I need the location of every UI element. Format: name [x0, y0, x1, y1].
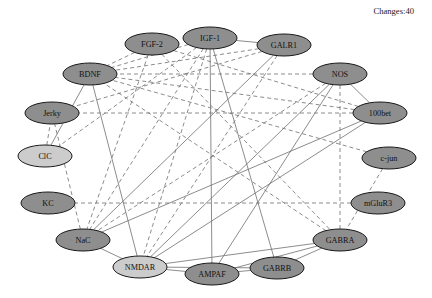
graph-node-bdnf[interactable]: BDNF: [63, 63, 117, 85]
graph-node-galr1[interactable]: GALR1: [257, 34, 311, 56]
graph-edge: [112, 80, 367, 152]
graph-edge: [93, 85, 137, 256]
graph-node-nos[interactable]: NOS: [313, 63, 367, 85]
node-label: c-jun: [381, 154, 398, 163]
node-label: NMDAR: [125, 263, 156, 272]
graph-edge: [104, 83, 326, 230]
node-layer: FGF-2IGF-1GALR1NOS100betc-junmGluR3GABRA…: [18, 27, 416, 285]
graph-node-mglur3[interactable]: mGluR3: [351, 192, 405, 214]
graph-edge: [238, 270, 250, 271]
graph-edge: [236, 40, 257, 42]
graph-edge: [350, 84, 369, 103]
graph-edge: [162, 54, 330, 230]
graph-node-c-jun[interactable]: c-jun: [362, 147, 416, 169]
graph-node-jerky[interactable]: Jerky: [25, 102, 79, 124]
node-label: AMPAF: [198, 270, 226, 279]
node-label: NOS: [332, 70, 349, 79]
graph-svg: FGF-2IGF-1GALR1NOS100betc-junmGluR3GABRA…: [0, 0, 432, 298]
node-label: KC: [42, 199, 54, 208]
graph-node-gabrb[interactable]: GABRB: [250, 257, 304, 279]
graph-edge: [107, 52, 134, 65]
graph-edge: [147, 56, 277, 257]
graph-edge: [101, 248, 123, 258]
node-label: GALR1: [271, 41, 297, 50]
node-label: FGF-2: [141, 40, 163, 49]
graph-edge: [102, 121, 362, 232]
graph-edge: [47, 124, 50, 145]
graph-node-clc[interactable]: ClC: [18, 145, 72, 167]
graph-edge: [213, 49, 274, 257]
graph-node-gabra[interactable]: GABRA: [313, 229, 367, 251]
graph-node-nmdar[interactable]: NMDAR: [113, 256, 167, 278]
graph-node-fgf-2[interactable]: FGF-2: [125, 33, 179, 55]
node-label: BDNF: [79, 70, 101, 79]
node-label: Jerky: [43, 109, 62, 118]
network-diagram-canvas: FGF-2IGF-1GALR1NOS100betc-junmGluR3GABRA…: [0, 0, 432, 298]
graph-edge: [143, 49, 206, 256]
graph-edge: [166, 270, 185, 272]
graph-node-ampaf[interactable]: AMPAF: [185, 263, 239, 285]
node-label: GABRB: [263, 264, 292, 273]
graph-node-nac[interactable]: NaC: [56, 229, 110, 251]
node-label: NaC: [75, 236, 91, 245]
node-label: ClC: [38, 152, 52, 161]
changes-count-label: Changes:40: [373, 6, 414, 16]
node-label: 100bet: [369, 109, 392, 118]
graph-node-kc[interactable]: KC: [21, 192, 75, 214]
node-label: GABRA: [326, 236, 355, 245]
graph-node-igf-1[interactable]: IGF-1: [183, 27, 237, 49]
node-label: mGluR3: [364, 199, 392, 208]
node-label: IGF-1: [200, 34, 220, 43]
graph-edge: [116, 77, 355, 109]
graph-node-100bet[interactable]: 100bet: [353, 102, 407, 124]
graph-edge: [295, 248, 322, 260]
